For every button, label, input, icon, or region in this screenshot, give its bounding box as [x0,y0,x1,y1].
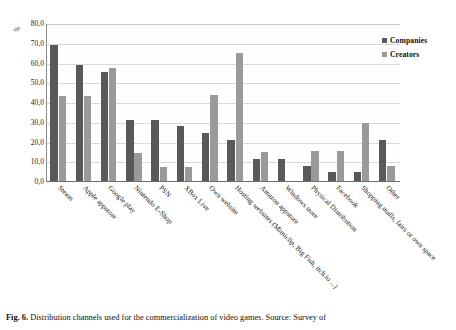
plot-area [46,24,400,182]
bar-companies [227,140,234,181]
bar-creators [185,167,192,181]
bar-group [199,24,224,181]
bar-group [98,24,123,181]
bar-companies [76,65,83,181]
x-axis-label: Facebook [334,184,360,210]
y-tick-label: 70,0 [16,40,44,48]
bar-group [72,24,97,181]
bar-companies [379,140,386,181]
bar-creators [134,153,141,181]
bar-group [173,24,198,181]
legend-item: Companies [382,36,456,45]
bar-companies [177,126,184,181]
bar-companies [101,72,108,181]
bar-chart: % 80,070,060,050,040,030,020,010,00,0 Co… [0,6,456,306]
bar-group [275,24,300,181]
bar-creators [210,95,217,181]
bars-layer [47,24,400,181]
figure-caption: Fig. 6. Distribution channels used for t… [6,313,452,323]
bar-creators [362,123,369,181]
x-axis-label: Steam [56,184,75,203]
x-axis-label: PSN [157,184,172,199]
bar-group [249,24,274,181]
bar-creators [236,53,243,181]
bar-creators [261,152,268,181]
y-tick-label: 0,0 [16,178,44,186]
y-tick-label: 20,0 [16,139,44,147]
bar-group [148,24,173,181]
legend-label: Creators [390,50,419,59]
bar-creators [84,96,91,181]
x-axis-label: Other [385,184,402,201]
y-axis-tick-labels: 80,070,060,050,040,030,020,010,00,0 [16,20,44,182]
bar-group [47,24,72,181]
bar-creators [387,166,394,181]
bar-group [224,24,249,181]
y-tick-label: 10,0 [16,158,44,166]
bar-companies [328,172,335,181]
bar-creators [59,96,66,181]
bar-creators [160,167,167,181]
legend-swatch-icon [382,52,387,57]
bar-group [350,24,375,181]
y-tick-label: 80,0 [16,20,44,28]
bar-companies [253,159,260,181]
bar-creators [337,151,344,181]
x-axis-label: Physical Distribution [309,184,358,233]
x-axis-category-labels: SteamApple appstoreGoogle playNintendo E… [46,184,456,314]
legend-item: Creators [382,50,456,59]
bar-companies [126,120,133,181]
bar-creators [109,68,116,181]
figure-caption-text: Distribution channels used for the comme… [30,313,326,322]
figure-number: Fig. 6. [6,313,28,322]
y-tick-label: 50,0 [16,79,44,87]
y-tick-label: 40,0 [16,99,44,107]
bar-creators [311,151,318,181]
bar-companies [50,45,57,181]
bar-companies [354,172,361,181]
bar-companies [202,133,209,181]
chart-legend: CompaniesCreators [382,36,456,64]
bar-companies [278,159,285,181]
y-tick-label: 60,0 [16,60,44,68]
figure-container: % 80,070,060,050,040,030,020,010,00,0 Co… [0,0,456,330]
y-tick-label: 30,0 [16,119,44,127]
legend-label: Companies [390,36,427,45]
legend-swatch-icon [382,38,387,43]
bar-group [300,24,325,181]
bar-companies [151,120,158,181]
bar-group [123,24,148,181]
bar-group [325,24,350,181]
bar-companies [303,166,310,181]
